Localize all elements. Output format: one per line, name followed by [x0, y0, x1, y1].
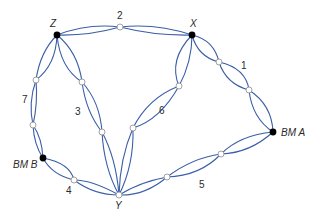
- bm-a-label: BM A: [281, 127, 305, 138]
- turning-point: [33, 77, 39, 83]
- line-label-6: 6: [159, 105, 165, 116]
- node-z-marker: [54, 32, 61, 39]
- node-z-label: Z: [49, 18, 57, 29]
- line-label-2: 2: [117, 10, 123, 21]
- line-label-1: 1: [241, 60, 247, 71]
- turning-point: [30, 122, 36, 128]
- line-3: [57, 35, 119, 195]
- node-y-label: Y: [115, 200, 123, 211]
- line-6: [119, 35, 192, 195]
- turning-point: [130, 125, 136, 131]
- line-label-4: 4: [66, 185, 72, 196]
- line-2: [57, 26, 192, 35]
- turning-point: [246, 87, 252, 93]
- node-y-marker: [116, 192, 122, 198]
- turning-point: [117, 24, 123, 30]
- bm-b-label: BM B: [13, 159, 38, 170]
- turning-point: [164, 174, 170, 180]
- line-5: [119, 132, 273, 195]
- turning-point: [99, 129, 105, 135]
- turning-point: [216, 59, 222, 65]
- line-label-5: 5: [199, 179, 205, 190]
- level-network-diagram: Z X Y BM B BM A 2 1 7 3 6 4 5: [0, 0, 323, 214]
- turning-point: [176, 83, 182, 89]
- turning-point: [71, 177, 77, 183]
- bm-b-marker: [40, 155, 47, 162]
- turning-point: [79, 79, 85, 85]
- line-label-3: 3: [75, 106, 81, 117]
- node-x-marker: [189, 32, 196, 39]
- line-label-7: 7: [22, 94, 28, 105]
- turning-points: [30, 24, 252, 198]
- turning-point: [218, 151, 224, 157]
- node-x-label: X: [189, 18, 197, 29]
- junction-markers: [40, 32, 277, 162]
- line-1: [192, 35, 273, 132]
- bm-a-marker: [270, 129, 277, 136]
- line-4: [43, 158, 119, 195]
- line-7: [31, 35, 57, 158]
